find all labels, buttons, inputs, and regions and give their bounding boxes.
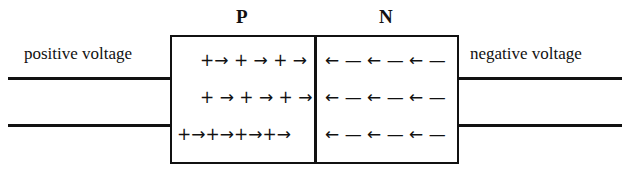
junction-divider: [314, 35, 317, 164]
n-row-1: ← — ← — ← —: [325, 50, 446, 70]
n-row-2: ← — ← — ← —: [325, 87, 446, 107]
right-upper-wire: [459, 77, 622, 80]
left-upper-wire: [8, 77, 170, 80]
negative-voltage-label: negative voltage: [470, 44, 582, 64]
positive-voltage-label: positive voltage: [24, 44, 132, 64]
n-region-label: N: [379, 6, 393, 28]
p-row-1: +→ + → + →: [200, 50, 307, 70]
n-row-3: ← — ← — ← —: [325, 124, 446, 144]
p-region-label: P: [236, 6, 248, 28]
p-row-2: + → + → + →: [200, 87, 312, 107]
right-lower-wire: [459, 124, 622, 127]
left-lower-wire: [8, 124, 170, 127]
p-row-3: +→+→+→+→: [177, 124, 291, 144]
